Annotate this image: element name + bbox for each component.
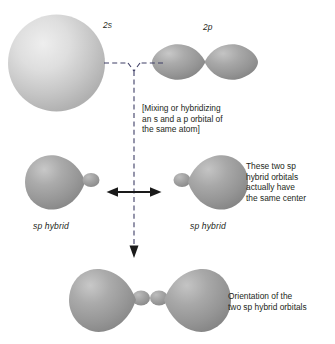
orientation-line-2: two sp hybrid orbitals xyxy=(228,302,307,313)
same-center-note: These two sp hybrid orbitals actually ha… xyxy=(246,161,306,204)
orientation-line-1: Orientation of the xyxy=(228,291,307,302)
same-center-line-2: hybrid orbitals xyxy=(246,172,306,183)
mixing-note-line-1: [Mixing or hybridizing xyxy=(142,103,223,114)
mixing-note-line-3: the same atom] xyxy=(142,124,223,135)
sp-hybrid-left-orbital xyxy=(25,155,100,209)
p-orbital-dumbbell xyxy=(152,44,258,80)
same-center-line-4: the same center xyxy=(246,193,306,204)
p-orbital-label: 2p xyxy=(203,22,213,33)
sp-hybrid-right-orbital xyxy=(174,155,249,209)
sp-hybrid-right-label: sp hybrid xyxy=(190,221,226,232)
combined-sp-orbital-pair xyxy=(69,269,231,332)
mixing-note-line-2: an s and a p orbital of xyxy=(142,114,223,125)
s-orbital-sphere xyxy=(8,15,105,112)
s-orbital-label: 2s xyxy=(103,20,112,31)
same-center-line-3: actually have xyxy=(246,182,306,193)
sp-hybridization-figure: 2s 2p [Mixing or hybridizing an s and a … xyxy=(0,0,335,344)
same-center-line-1: These two sp xyxy=(246,161,306,172)
vertical-dashed-connector xyxy=(130,71,139,258)
orientation-note: Orientation of the two sp hybrid orbital… xyxy=(228,291,307,312)
sp-hybrid-left-label: sp hybrid xyxy=(33,221,69,232)
mixing-hybridizing-note: [Mixing or hybridizing an s and a p orbi… xyxy=(142,103,223,135)
